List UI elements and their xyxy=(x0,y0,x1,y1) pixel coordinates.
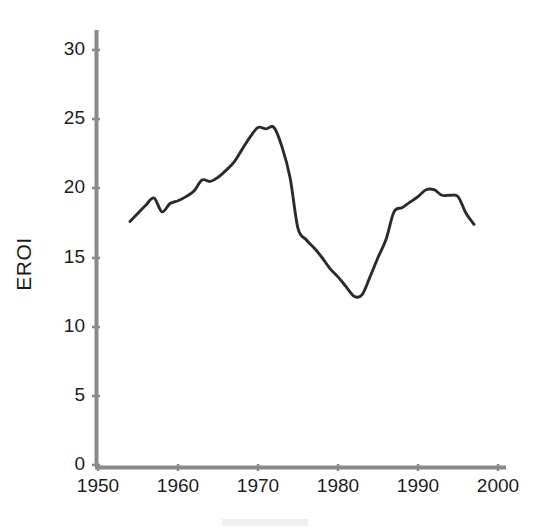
y-tick-label-25: 25 xyxy=(64,107,85,128)
y-tick-label-15: 15 xyxy=(64,246,85,267)
x-tick-label-1980: 1980 xyxy=(317,475,359,496)
x-tick-label-1950: 1950 xyxy=(77,475,119,496)
y-axis-title: EROI xyxy=(12,237,35,290)
y-tick-label-5: 5 xyxy=(74,384,85,405)
x-tick-label-1960: 1960 xyxy=(157,475,199,496)
y-tick-label-20: 20 xyxy=(64,176,85,197)
scan-smudge xyxy=(222,519,308,526)
y-tick-label-30: 30 xyxy=(64,38,85,59)
x-tick-label-1990: 1990 xyxy=(397,475,439,496)
x-tick-label-1970: 1970 xyxy=(237,475,279,496)
y-tick-label-0: 0 xyxy=(74,453,85,474)
eroi-data-line xyxy=(130,126,474,297)
eroi-line-chart-figure: 0 5 10 15 20 25 30 1950 1960 1970 1980 1… xyxy=(0,0,554,532)
chart-canvas: 0 5 10 15 20 25 30 1950 1960 1970 1980 1… xyxy=(0,0,554,532)
y-tick-label-10: 10 xyxy=(64,315,85,336)
x-tick-label-2000: 2000 xyxy=(477,475,519,496)
